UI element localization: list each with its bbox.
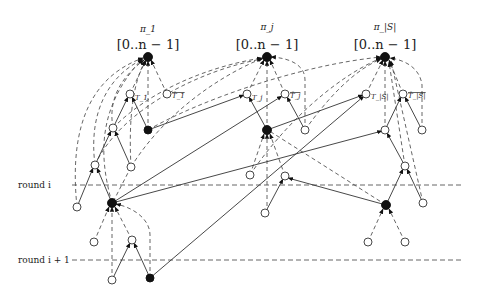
tree-label-t1: T_1 (135, 94, 148, 102)
column-header-s: π_|S| [0..n − 1] (354, 22, 416, 52)
tree-label-ts-bar: T̄_|S| (408, 91, 426, 100)
column-header-1: π_1 [0..n − 1] (117, 24, 179, 52)
process-label: π_|S| (373, 22, 397, 33)
dashed-edges-node-j (250, 132, 386, 213)
tree-label-tj: T_j (252, 94, 263, 102)
tree-label-tj-bar: T̄_j (290, 91, 301, 100)
tree-label-t1-bar: T̄_1 (172, 91, 185, 100)
process-label: π_1 (139, 24, 156, 35)
tree-label-ts: T_|S| (371, 93, 389, 101)
node-labels: T_1 T̄_1 T_j T̄_j T_|S| T̄_|S| (135, 91, 426, 102)
root-node-s (381, 53, 390, 62)
column-header-j: π_j [0..n − 1] (236, 22, 298, 52)
dashed-edges-root-j (95, 57, 305, 167)
root-node-j (263, 53, 272, 62)
round-i-label: round i (18, 180, 51, 190)
interval-label: [0..n − 1] (354, 37, 416, 52)
solid-cross-edges (112, 95, 386, 278)
diagram-canvas: π_1 [0..n − 1] π_j [0..n − 1] π_|S| [0..… (0, 0, 480, 298)
process-label: π_j (259, 22, 273, 33)
tree-diagram: π_1 [0..n − 1] π_j [0..n − 1] π_|S| [0..… (0, 0, 480, 298)
root-node-1 (144, 53, 153, 62)
round-i1-label: round i + 1 (18, 255, 70, 265)
interval-label: [0..n − 1] (117, 37, 179, 52)
interval-label: [0..n − 1] (236, 37, 298, 52)
dashed-edges-node-s (368, 209, 405, 242)
solid-tree-edges (77, 97, 423, 280)
